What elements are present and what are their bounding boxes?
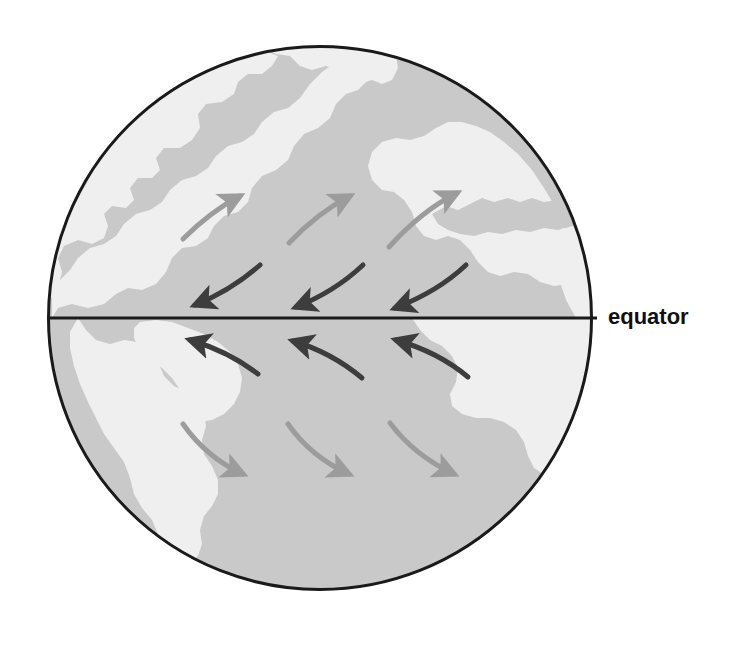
- globe-diagram-figure: equator: [0, 0, 735, 656]
- globe: [47, 42, 594, 590]
- globe-diagram-svg: equator: [0, 0, 735, 656]
- equator-label: equator: [608, 304, 689, 329]
